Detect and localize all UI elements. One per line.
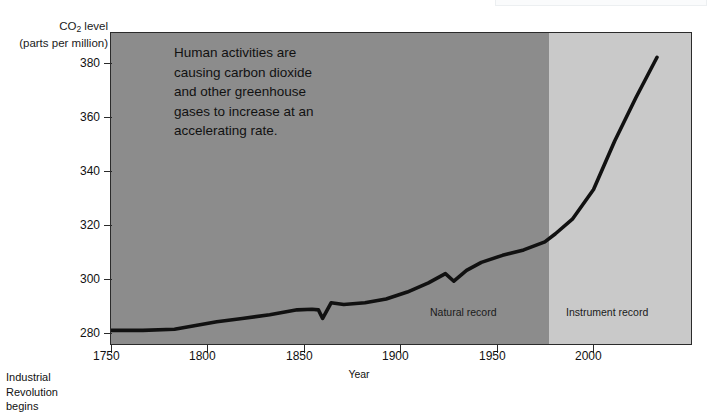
x-tick-label-1850: 1850 (286, 349, 313, 363)
y-tick-360 (104, 117, 112, 118)
y-tick-320 (104, 225, 112, 226)
x-tick-label-1900: 1900 (382, 349, 409, 363)
x-tick-label-1750: 1750 (93, 349, 120, 363)
x-axis-title: Year (0, 368, 718, 380)
y-tick-380 (104, 63, 112, 64)
y-tick-300 (104, 279, 112, 280)
industrial-revolution-leader-line (0, 0, 200, 60)
chart-page: CO2 level (parts per million) Human acti… (0, 0, 718, 416)
co2-curve (111, 33, 692, 345)
y-tick-label-280: 280 (56, 326, 100, 340)
y-tick-label-320: 320 (56, 218, 100, 232)
top-panel-decoration (495, 0, 707, 6)
annotation-industrial-revolution: Industrial Revolution begins (6, 370, 58, 414)
y-tick-340 (104, 171, 112, 172)
x-tick-label-2000: 2000 (575, 349, 602, 363)
y-tick-label-340: 340 (56, 164, 100, 178)
y-tick-label-360: 360 (56, 110, 100, 124)
y-tick-280 (104, 333, 112, 334)
y-tick-label-300: 300 (56, 272, 100, 286)
x-tick-label-1800: 1800 (189, 349, 216, 363)
x-tick-label-1950: 1950 (479, 349, 506, 363)
plot-area: Human activities are causing carbon diox… (110, 32, 692, 345)
